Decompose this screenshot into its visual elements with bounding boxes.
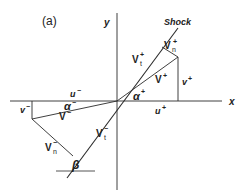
svg-text:+: + bbox=[163, 72, 167, 79]
vn-plus-label: V + n bbox=[164, 38, 177, 53]
svg-text:−: − bbox=[104, 125, 108, 132]
svg-text:V: V bbox=[164, 40, 171, 51]
svg-text:u: u bbox=[155, 106, 161, 116]
svg-text:V: V bbox=[96, 128, 103, 139]
shock-label: Shock bbox=[164, 17, 192, 27]
panel-label: (a) bbox=[42, 14, 57, 28]
v-plus-vector bbox=[117, 57, 178, 101]
svg-text:−: − bbox=[72, 99, 76, 106]
svg-text:V: V bbox=[155, 74, 162, 85]
svg-text:t: t bbox=[104, 134, 106, 141]
svg-text:−: − bbox=[26, 103, 30, 110]
shock-line bbox=[67, 28, 178, 178]
u-plus-label: u + bbox=[155, 104, 166, 116]
svg-text:V: V bbox=[45, 142, 52, 153]
y-axis-label: y bbox=[103, 17, 110, 28]
svg-text:u: u bbox=[70, 89, 76, 99]
v-minus-label: V − bbox=[59, 109, 71, 122]
alpha-plus-label: α + bbox=[133, 88, 145, 102]
svg-text:t: t bbox=[140, 60, 142, 67]
v-minus-small-label: v − bbox=[20, 103, 30, 115]
svg-text:V: V bbox=[59, 111, 66, 122]
svg-text:n: n bbox=[53, 148, 57, 155]
svg-text:+: + bbox=[188, 75, 192, 82]
svg-text:+: + bbox=[173, 38, 177, 45]
shock-velocity-diagram: (a) y x Shock V + t V + n V + v + u + α … bbox=[0, 0, 247, 193]
u-minus-label: u − bbox=[70, 87, 81, 99]
v-plus-label: V + bbox=[155, 72, 167, 85]
svg-text:−: − bbox=[77, 87, 81, 94]
svg-text:−: − bbox=[53, 139, 57, 146]
vt-plus-label: V + t bbox=[132, 51, 144, 67]
svg-text:V: V bbox=[132, 54, 139, 65]
vt-minus-label: V − t bbox=[96, 125, 108, 141]
svg-text:−: − bbox=[67, 109, 71, 116]
svg-text:α: α bbox=[133, 90, 141, 102]
svg-text:+: + bbox=[162, 104, 166, 111]
beta-label: β bbox=[71, 158, 80, 172]
x-axis-label: x bbox=[228, 96, 235, 107]
v-plus-small-label: v + bbox=[182, 75, 192, 87]
svg-text:+: + bbox=[140, 51, 144, 58]
vn-minus-label: V − n bbox=[45, 139, 57, 155]
svg-text:+: + bbox=[141, 88, 145, 95]
svg-text:n: n bbox=[172, 46, 176, 53]
